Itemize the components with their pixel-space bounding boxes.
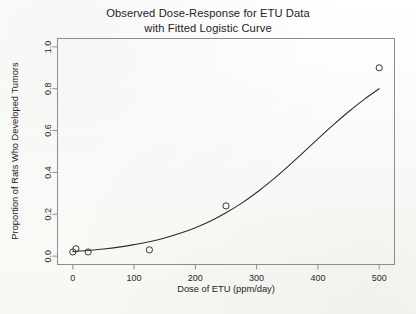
y-axis-label: Proportion of Rats Who Developed Tumors [10, 62, 20, 240]
y-tick-label: 1.0 [43, 41, 53, 54]
x-axis-ticks: 0100200300400500 [70, 265, 386, 283]
y-tick-label: 0.0 [43, 250, 53, 263]
data-point [85, 249, 91, 255]
data-point [376, 65, 382, 71]
figure-page: Observed Dose-Response for ETU Data with… [0, 0, 416, 314]
y-axis-ticks: 0.00.20.40.60.81.0 [43, 41, 58, 263]
plot-frame [58, 39, 395, 265]
y-tick-label: 0.8 [43, 82, 53, 95]
y-tick-label: 0.2 [43, 208, 53, 221]
x-tick-label: 100 [127, 273, 142, 283]
data-point [223, 203, 229, 209]
x-axis-label: Dose of ETU (ppm/day) [177, 284, 275, 294]
x-tick-label: 400 [310, 273, 325, 283]
x-tick-label: 500 [372, 273, 387, 283]
plot-area: 0100200300400500 0.00.20.40.60.81.0 Dose… [0, 0, 416, 314]
observed-data-points [70, 65, 383, 255]
y-tick-label: 0.4 [43, 166, 53, 179]
x-tick-label: 200 [188, 273, 203, 283]
fitted-logistic-curve [73, 89, 379, 252]
y-tick-label: 0.6 [43, 124, 53, 137]
x-tick-label: 300 [249, 273, 264, 283]
data-point [146, 247, 152, 253]
x-tick-label: 0 [70, 273, 75, 283]
